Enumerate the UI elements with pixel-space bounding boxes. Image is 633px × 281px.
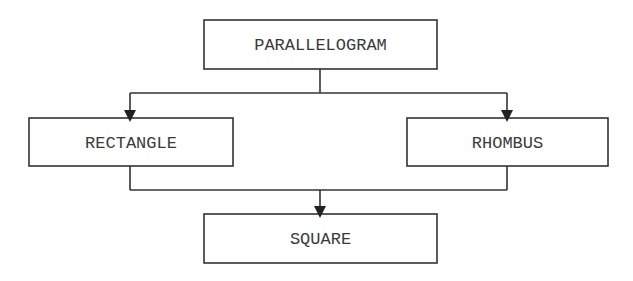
node-rectangle: RECTANGLE xyxy=(29,118,233,166)
node-label-rectangle: RECTANGLE xyxy=(85,134,177,153)
quadrilateral-hierarchy-diagram: PARALLELOGRAM RECTANGLE RHOMBUS SQUARE xyxy=(0,0,633,281)
node-label-square: SQUARE xyxy=(290,230,351,249)
node-label-parallelogram: PARALLELOGRAM xyxy=(254,36,387,55)
node-label-rhombus: RHOMBUS xyxy=(472,134,543,153)
node-square: SQUARE xyxy=(204,214,437,263)
edges-bottom xyxy=(130,166,507,206)
edges-top xyxy=(130,69,507,110)
node-rhombus: RHOMBUS xyxy=(407,118,608,166)
node-parallelogram: PARALLELOGRAM xyxy=(204,20,437,69)
